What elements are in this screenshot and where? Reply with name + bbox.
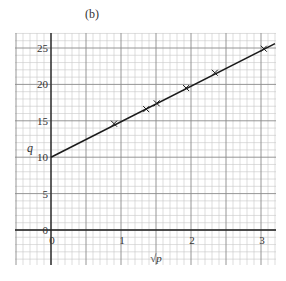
svg-text:0: 0 [43, 224, 49, 236]
y-axis-label: q [27, 141, 33, 155]
svg-text:1: 1 [119, 234, 125, 246]
svg-text:10: 10 [37, 151, 49, 163]
panel-label: (b) [85, 7, 99, 21]
svg-text:25: 25 [37, 42, 49, 54]
svg-text:2: 2 [189, 234, 195, 246]
chart-canvas: 05101520250123 (b) q √p [0, 0, 286, 281]
svg-text:15: 15 [37, 115, 49, 127]
axes [15, 33, 276, 265]
svg-text:5: 5 [43, 188, 49, 200]
x-axis-label: √p [150, 252, 162, 264]
svg-text:0: 0 [49, 234, 55, 246]
svg-text:20: 20 [37, 78, 49, 90]
svg-text:3: 3 [259, 234, 265, 246]
